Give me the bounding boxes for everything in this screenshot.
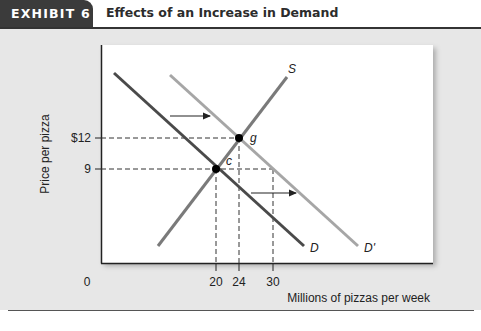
equilibrium-point-c [212,165,220,173]
plot-area [101,45,433,263]
y-axis-title: Price per pizza [38,114,52,194]
label-d: D [310,241,319,255]
x-tick-label-30: 30 [266,275,280,289]
y-tick-label-12: $12 [71,131,91,145]
label-d-prime: D' [364,241,376,255]
y-tick-label-9: 9 [84,162,91,176]
origin-label: 0 [84,275,91,289]
x-tick-label-24: 24 [232,275,246,289]
x-tick-label-20: 20 [209,275,223,289]
label-g: g [250,131,257,145]
label-c: c [226,154,232,168]
supply-demand-chart: S D D' g c $12 9 0 20 24 30 Millions of … [0,0,481,331]
equilibrium-point-g [235,134,243,142]
label-s: S [288,62,296,76]
x-axis-title: Millions of pizzas per week [287,291,431,305]
